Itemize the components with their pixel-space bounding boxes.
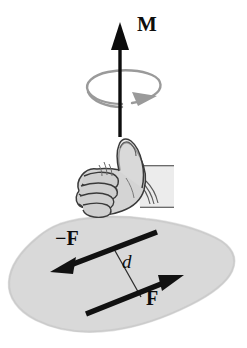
finger-little [83, 203, 111, 217]
physics-figure-couple-right-hand-rule: M −F F d [0, 0, 247, 348]
label-moment-M: M [137, 14, 157, 35]
figure-canvas [0, 0, 247, 348]
plane-blob [9, 217, 234, 332]
label-force-negative: −F [55, 228, 79, 248]
moment-axis-arrow [111, 22, 129, 137]
rotation-ellipse-arrow [87, 70, 160, 107]
right-hand-thumbs-up [76, 139, 145, 217]
label-force-positive: F [146, 288, 158, 308]
label-distance-d: d [122, 252, 132, 271]
moment-arrow-head [111, 22, 129, 50]
